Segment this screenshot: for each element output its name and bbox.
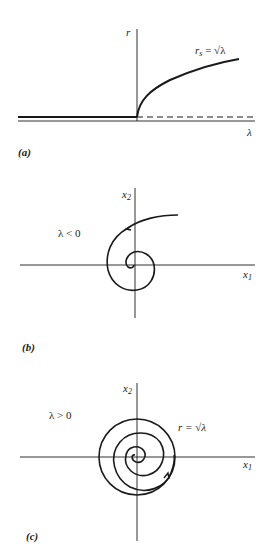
panel-a-sqrt-branch	[137, 59, 239, 117]
panel-b-inward-spiral	[107, 215, 178, 290]
panel-c-x1-label: x1	[243, 459, 252, 472]
panel-c-cycle-label: r = √λ	[178, 422, 206, 433]
panel-b-condition: λ < 0	[58, 228, 81, 239]
panel-c-x2-label: x2	[123, 383, 132, 396]
panel-a-horizontal-axis-label: λ	[247, 127, 252, 138]
panel-c-graphics	[20, 383, 255, 541]
panel-b-x2-label: x2	[122, 189, 131, 202]
panel-b-x1-label: x1	[243, 269, 252, 282]
x2-label-sub: 2	[127, 193, 131, 202]
curve-label-rhs: = √λ	[205, 44, 225, 56]
panel-b-direction-arrow	[126, 226, 131, 230]
curve-label-sub: s	[199, 49, 202, 58]
panel-b-graphics	[20, 188, 255, 318]
panel-c-caption: (c)	[26, 531, 38, 542]
panel-c-outward-spiral	[114, 433, 175, 490]
x1-label-sub: 1	[248, 463, 252, 472]
panel-a-vertical-axis-label: r	[126, 27, 130, 38]
diagram-canvas	[0, 0, 266, 550]
panel-c-condition: λ > 0	[49, 410, 72, 421]
panel-c-direction-arrow	[164, 473, 169, 479]
panel-a-curve-label: rs = √λ	[195, 45, 225, 58]
panel-b-caption: (b)	[22, 342, 35, 353]
x1-label-sub: 1	[248, 273, 252, 282]
panel-a-graphics	[18, 29, 255, 121]
x2-label-sub: 2	[128, 387, 132, 396]
panel-a-caption: (a)	[18, 147, 31, 158]
